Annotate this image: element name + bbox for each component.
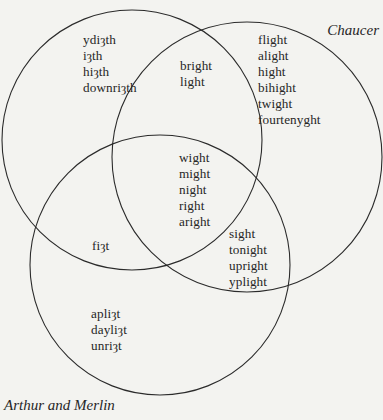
set-label-arthur-and-merlin: Arthur and Merlin (4, 397, 115, 414)
venn-diagram: Chaucer Arthur and Merlin ydiȝth iȝth hi… (0, 0, 383, 420)
word: unriȝt (91, 338, 127, 354)
word: right (179, 198, 210, 214)
word: downriȝth (83, 80, 137, 96)
region-a-and-arthur: fiȝt (92, 238, 109, 254)
word: tonight (229, 242, 268, 258)
region-chaucer-only: flight alight hight bihight twight fourt… (258, 32, 321, 128)
word: hight (258, 64, 321, 80)
word: bright (180, 58, 212, 74)
region-arthur-only: apliȝt dayliȝt unriȝt (91, 306, 127, 354)
word: aright (179, 214, 210, 230)
word: alight (258, 48, 321, 64)
word: yplight (229, 274, 268, 290)
word: fourtenyght (258, 112, 321, 128)
word: flight (258, 32, 321, 48)
word: sight (229, 226, 268, 242)
set-label-chaucer: Chaucer (327, 22, 379, 39)
region-all-three: wight might night right aright (179, 150, 210, 230)
word: apliȝt (91, 306, 127, 322)
word: ydiȝth (83, 32, 137, 48)
word: bihight (258, 80, 321, 96)
word: upright (229, 258, 268, 274)
region-chaucer-and-arthur: sight tonight upright yplight (229, 226, 268, 290)
word: fiȝt (92, 238, 109, 254)
word: might (179, 166, 210, 182)
word: wight (179, 150, 210, 166)
word: hiȝth (83, 64, 137, 80)
region-a-only: ydiȝth iȝth hiȝth downriȝth (83, 32, 137, 96)
region-a-and-chaucer: bright light (180, 58, 212, 90)
word: iȝth (83, 48, 137, 64)
word: twight (258, 96, 321, 112)
word: dayliȝt (91, 322, 127, 338)
word: night (179, 182, 210, 198)
word: light (180, 74, 212, 90)
